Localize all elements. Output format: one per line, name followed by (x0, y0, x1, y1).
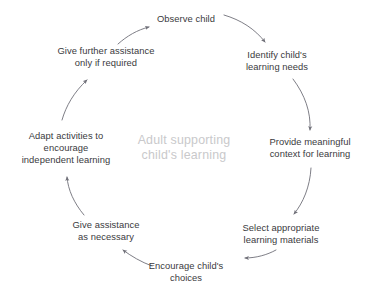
node-select-learning-materials: Select appropriate learning materials (243, 222, 320, 246)
node-identify-learning-needs-line-1: Identify child's (246, 49, 308, 61)
center-title-line-1: Adult supporting (138, 133, 231, 148)
node-adapt-activities-line-3: independent learning (22, 154, 111, 166)
center-title: Adult supporting child's learning (138, 133, 231, 164)
node-identify-learning-needs-line-2: learning needs (246, 61, 308, 73)
node-give-assistance-as-necessary-line-2: as necessary (73, 231, 140, 243)
arrow-provide-to-select (294, 168, 311, 214)
arrow-further-to-observe (118, 27, 149, 44)
node-give-further-assistance: Give further assistance only if required (57, 45, 154, 69)
node-observe-child-line-1: Observe child (157, 13, 215, 25)
node-give-further-assistance-line-2: only if required (57, 57, 154, 69)
node-give-assistance-as-necessary-line-1: Give assistance (73, 219, 140, 231)
node-select-learning-materials-line-1: Select appropriate (243, 222, 320, 234)
node-select-learning-materials-line-2: learning materials (243, 234, 320, 246)
node-provide-meaningful-context-line-1: Provide meaningful (269, 136, 350, 148)
arrow-encourage-to-assistance (123, 250, 152, 266)
arrow-observe-to-identify (224, 15, 265, 42)
node-adapt-activities-line-2: encourage (22, 142, 111, 154)
node-adapt-activities: Adapt activities to encourage independen… (22, 130, 111, 167)
node-provide-meaningful-context-line-2: context for learning (269, 148, 350, 160)
center-title-line-2: child's learning (138, 148, 231, 163)
arrow-assistance-to-adapt (67, 177, 84, 215)
node-give-further-assistance-line-1: Give further assistance (57, 45, 154, 57)
cycle-diagram: Adult supporting child's learning Observ… (0, 0, 371, 298)
node-observe-child: Observe child (157, 13, 215, 25)
node-identify-learning-needs: Identify child's learning needs (246, 49, 308, 73)
node-provide-meaningful-context: Provide meaningful context for learning (269, 136, 350, 160)
arrow-adapt-to-further (62, 80, 87, 120)
arrow-identify-to-provide (293, 79, 310, 130)
node-adapt-activities-line-1: Adapt activities to (22, 130, 111, 142)
arrow-select-to-encourage (245, 250, 276, 258)
node-encourage-childs-choices-line-1: Encourage child's (149, 260, 224, 272)
node-encourage-childs-choices: Encourage child's choices (149, 260, 224, 284)
node-encourage-childs-choices-line-2: choices (149, 272, 224, 284)
node-give-assistance-as-necessary: Give assistance as necessary (73, 219, 140, 243)
